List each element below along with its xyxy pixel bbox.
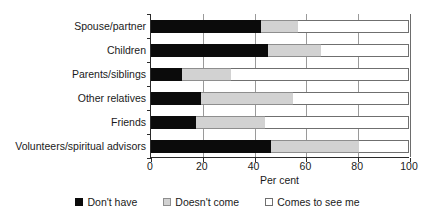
y-axis-tick bbox=[147, 86, 151, 87]
y-axis-tick bbox=[147, 158, 151, 159]
bar-segment bbox=[151, 140, 271, 153]
bar-segment bbox=[271, 140, 359, 153]
legend-label: Doesn't come bbox=[175, 196, 239, 208]
gridline bbox=[203, 14, 204, 157]
white-empty-square-icon bbox=[265, 198, 273, 206]
legend-item[interactable]: Don't have bbox=[75, 196, 137, 208]
legend-item[interactable]: Doesn't come bbox=[163, 196, 239, 208]
bar-segment bbox=[268, 44, 321, 57]
category-label: Friends bbox=[4, 117, 150, 128]
black-filled-square-icon bbox=[75, 198, 83, 206]
stacked-bar-chart: Spouse/partnerChildrenParents/siblingsOt… bbox=[0, 0, 435, 215]
bar-row bbox=[151, 20, 409, 33]
category-label: Other relatives bbox=[4, 93, 150, 104]
gridline bbox=[410, 14, 411, 157]
bar-segment bbox=[265, 116, 409, 129]
bar-segment bbox=[196, 116, 264, 129]
y-axis-tick bbox=[147, 14, 151, 15]
bar-segment bbox=[151, 44, 268, 57]
category-label: Volunteers/spiritual advisors bbox=[4, 141, 150, 152]
gridline bbox=[306, 14, 307, 157]
x-axis-tick-label: 80 bbox=[337, 160, 377, 172]
x-axis-title: Per cent bbox=[150, 174, 409, 186]
gridline bbox=[358, 14, 359, 157]
bar-row bbox=[151, 44, 409, 57]
legend-label: Comes to see me bbox=[277, 196, 359, 208]
bar-segment bbox=[151, 20, 261, 33]
legend: Don't haveDoesn't comeComes to see me bbox=[0, 194, 435, 210]
gridline bbox=[255, 14, 256, 157]
category-label: Parents/siblings bbox=[4, 69, 150, 80]
bar-segment bbox=[201, 92, 293, 105]
y-axis-tick bbox=[147, 110, 151, 111]
category-label: Spouse/partner bbox=[4, 21, 150, 32]
y-axis-tick bbox=[147, 38, 151, 39]
x-axis-tick-label: 20 bbox=[182, 160, 222, 172]
gray-filled-square-icon bbox=[163, 198, 171, 206]
x-axis-tick-label: 40 bbox=[234, 160, 274, 172]
bar-segment bbox=[321, 44, 409, 57]
bar-segment bbox=[151, 92, 201, 105]
plot-area bbox=[150, 14, 409, 158]
category-label: Children bbox=[4, 45, 150, 56]
x-axis-tick-labels: 020406080100 bbox=[0, 160, 435, 174]
bar-segment bbox=[182, 68, 231, 81]
bar-segment bbox=[231, 68, 409, 81]
bar-row bbox=[151, 68, 409, 81]
x-axis-tick-label: 0 bbox=[130, 160, 170, 172]
y-axis-tick bbox=[147, 134, 151, 135]
bar-segment bbox=[359, 140, 409, 153]
bar-segment bbox=[298, 20, 409, 33]
bar-row bbox=[151, 140, 409, 153]
legend-item[interactable]: Comes to see me bbox=[265, 196, 359, 208]
x-axis-tick-label: 100 bbox=[389, 160, 429, 172]
bar-row bbox=[151, 92, 409, 105]
y-axis-tick bbox=[147, 62, 151, 63]
bar-segment bbox=[151, 116, 196, 129]
legend-label: Don't have bbox=[87, 196, 137, 208]
category-axis-labels: Spouse/partnerChildrenParents/siblingsOt… bbox=[0, 14, 150, 158]
bar-row bbox=[151, 116, 409, 129]
bar-segment bbox=[293, 92, 409, 105]
bar-segment bbox=[261, 20, 298, 33]
bar-segment bbox=[151, 68, 182, 81]
x-axis-tick-label: 60 bbox=[285, 160, 325, 172]
